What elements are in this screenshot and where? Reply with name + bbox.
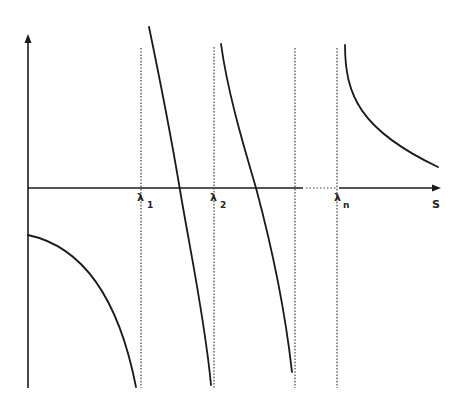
branch-0 xyxy=(28,235,136,387)
label-lambdan-sub: n xyxy=(343,200,349,210)
label-lambda2-sub: 2 xyxy=(220,200,226,210)
branch-1 xyxy=(149,27,211,385)
asymptotes xyxy=(141,47,337,388)
y-axis xyxy=(25,34,32,388)
secular-function-diagram: λ 1 λ 2 λ n S xyxy=(0,0,464,407)
branch-2 xyxy=(221,44,292,372)
label-lambdan: λ xyxy=(334,191,341,204)
function-branches xyxy=(28,27,438,387)
x-axis xyxy=(28,185,441,192)
branch-n xyxy=(345,45,438,167)
y-axis-arrow-icon xyxy=(25,34,32,43)
label-lambda2: λ xyxy=(210,191,217,204)
label-lambda1-sub: 1 xyxy=(147,200,153,210)
x-axis-arrow-icon xyxy=(432,185,441,192)
x-axis-label: S xyxy=(432,198,440,211)
label-lambda1: λ xyxy=(137,191,144,204)
